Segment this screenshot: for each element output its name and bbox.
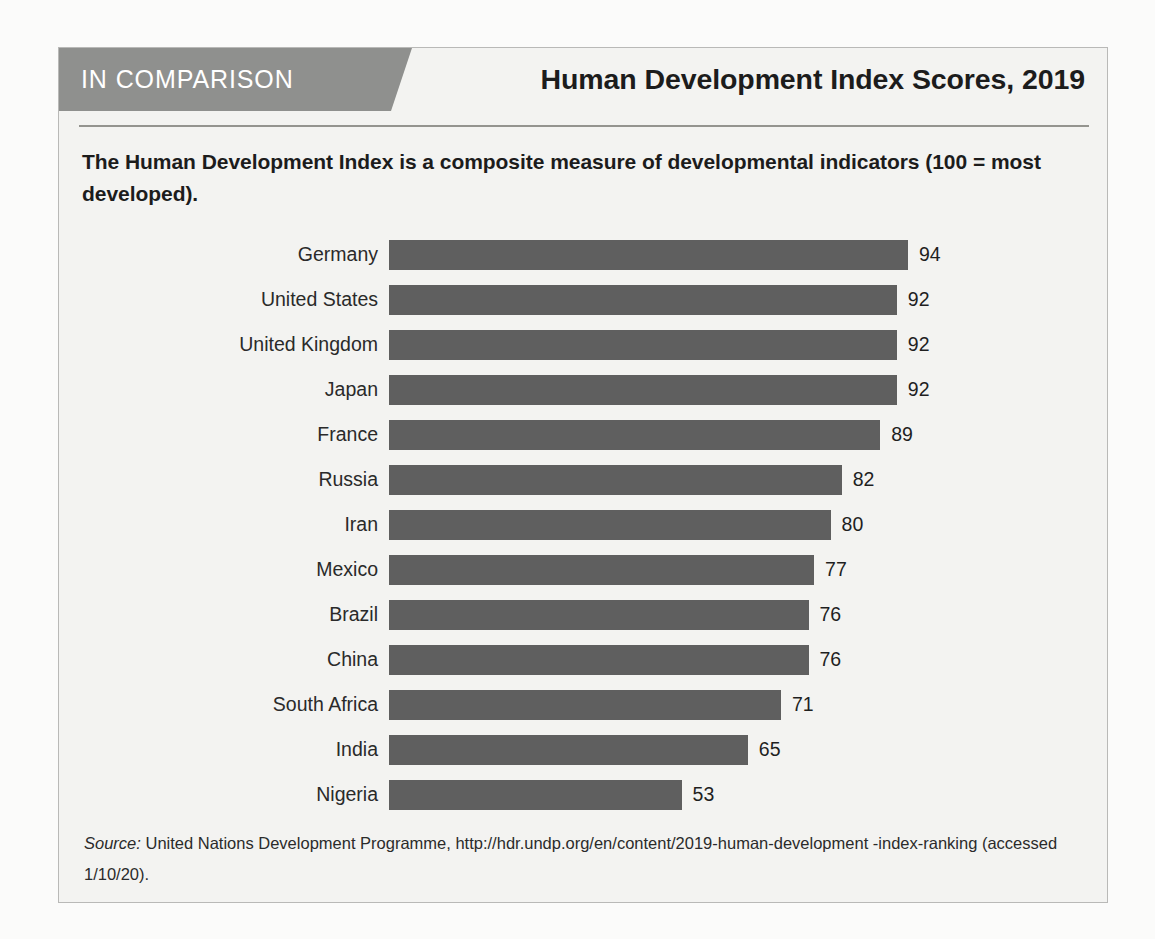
chart-row: United States92 [59, 277, 1108, 322]
chart-bar-track: 76 [389, 637, 1108, 682]
chart-bar-track: 82 [389, 457, 1108, 502]
chart-bar-track: 94 [389, 232, 1108, 277]
chart-bar [389, 555, 814, 585]
figure-source-prefix: Source: [84, 834, 141, 852]
chart-row-label: Germany [59, 243, 389, 266]
comparison-banner-label: IN COMPARISON [59, 65, 294, 94]
chart-row: Japan92 [59, 367, 1108, 412]
chart-row-label: China [59, 648, 389, 671]
chart-bar [389, 465, 842, 495]
chart-bar-value: 92 [897, 378, 930, 401]
chart-row: Brazil76 [59, 592, 1108, 637]
chart-bar-value: 76 [809, 648, 842, 671]
chart-bar-value: 89 [880, 423, 913, 446]
chart-bar [389, 375, 897, 405]
figure-card: IN COMPARISON Human Development Index Sc… [58, 47, 1108, 903]
chart-bar-value: 94 [908, 243, 941, 266]
chart-row: Nigeria53 [59, 772, 1108, 817]
chart-bar [389, 690, 781, 720]
chart-row: United Kingdom92 [59, 322, 1108, 367]
chart-bar-value: 82 [842, 468, 875, 491]
chart-bar [389, 510, 831, 540]
chart-row-label: Russia [59, 468, 389, 491]
chart-bar-value: 77 [814, 558, 847, 581]
chart-row-label: Nigeria [59, 783, 389, 806]
figure-source: Source: United Nations Development Progr… [84, 828, 1074, 889]
chart-bar [389, 780, 682, 810]
chart-row-label: Japan [59, 378, 389, 401]
chart-row: Iran80 [59, 502, 1108, 547]
chart-row: Mexico77 [59, 547, 1108, 592]
figure-source-text: United Nations Development Programme, ht… [84, 834, 1057, 883]
chart-bar [389, 420, 880, 450]
chart-bar-value: 92 [897, 288, 930, 311]
chart-bar [389, 645, 809, 675]
chart-row: Germany94 [59, 232, 1108, 277]
chart-bar [389, 330, 897, 360]
chart-row-label: India [59, 738, 389, 761]
chart-bar-track: 80 [389, 502, 1108, 547]
chart-bar-value: 53 [682, 783, 715, 806]
chart-row: South Africa71 [59, 682, 1108, 727]
chart-bar-value: 80 [831, 513, 864, 536]
figure-description: The Human Development Index is a composi… [82, 146, 1067, 210]
chart-bar-track: 92 [389, 367, 1108, 412]
comparison-banner: IN COMPARISON [59, 48, 412, 111]
chart-bar-track: 71 [389, 682, 1108, 727]
chart-bar-track: 76 [389, 592, 1108, 637]
chart-bar-track: 92 [389, 277, 1108, 322]
chart-row-label: United States [59, 288, 389, 311]
chart-row-label: Mexico [59, 558, 389, 581]
chart-bar-value: 76 [809, 603, 842, 626]
chart-row: China76 [59, 637, 1108, 682]
chart-row-label: France [59, 423, 389, 446]
chart-row: France89 [59, 412, 1108, 457]
chart-row-label: South Africa [59, 693, 389, 716]
chart-bar [389, 240, 908, 270]
chart-bar-track: 65 [389, 727, 1108, 772]
chart-bar-value: 65 [748, 738, 781, 761]
chart-row-label: Iran [59, 513, 389, 536]
chart-bar-value: 92 [897, 333, 930, 356]
chart-row: Russia82 [59, 457, 1108, 502]
chart-bar [389, 285, 897, 315]
chart-bar-track: 92 [389, 322, 1108, 367]
chart-row-label: United Kingdom [59, 333, 389, 356]
figure-title: Human Development Index Scores, 2019 [541, 48, 1085, 111]
chart-row: India65 [59, 727, 1108, 772]
chart-bar-track: 53 [389, 772, 1108, 817]
chart-bar-track: 89 [389, 412, 1108, 457]
bar-chart: Germany94United States92United Kingdom92… [59, 232, 1108, 817]
header-divider [79, 125, 1089, 127]
chart-bar-track: 77 [389, 547, 1108, 592]
chart-row-label: Brazil [59, 603, 389, 626]
chart-bar [389, 735, 748, 765]
chart-bar [389, 600, 809, 630]
figure-header: IN COMPARISON Human Development Index Sc… [59, 48, 1107, 111]
chart-bar-value: 71 [781, 693, 814, 716]
